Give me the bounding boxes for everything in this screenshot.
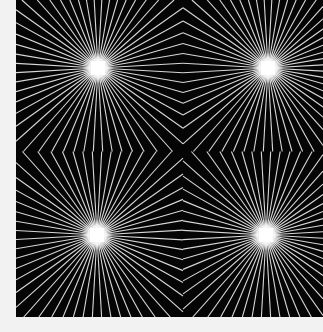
ray-line bbox=[98, 68, 173, 152]
radiating-lines-graphic bbox=[16, 0, 323, 317]
ray-line bbox=[97, 235, 183, 312]
ray-line bbox=[98, 68, 183, 144]
ray-line bbox=[97, 235, 170, 317]
ray-line bbox=[97, 158, 183, 235]
ray-line bbox=[183, 235, 266, 309]
ray-line bbox=[193, 68, 268, 152]
ray-line bbox=[16, 235, 97, 307]
ray-line bbox=[16, 68, 98, 141]
op-art-panel bbox=[16, 0, 323, 317]
light-square-top-left bbox=[91, 61, 105, 75]
ray-line bbox=[183, 161, 266, 235]
ray-line bbox=[24, 235, 97, 317]
ray-line bbox=[16, 163, 97, 235]
light-square-bottom-left bbox=[90, 228, 104, 242]
light-square-top-right bbox=[261, 61, 275, 75]
light-square-bottom-right bbox=[259, 228, 273, 242]
ray-line bbox=[183, 68, 268, 144]
ray-line bbox=[22, 152, 97, 236]
ray-line bbox=[97, 152, 172, 236]
ray-line bbox=[193, 235, 266, 317]
ray-line bbox=[191, 152, 266, 236]
ray-line bbox=[23, 68, 98, 152]
